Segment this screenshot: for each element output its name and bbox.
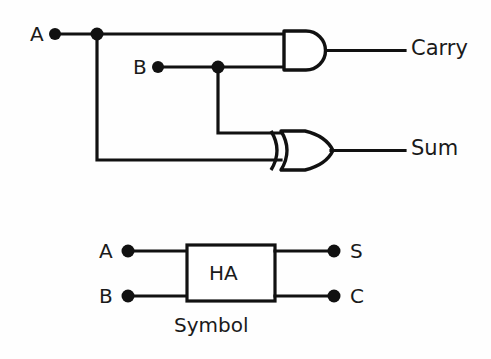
xor-gate	[271, 131, 405, 170]
wire-b-branch-to-xor	[218, 67, 281, 133]
terminal-dot-symbol-a	[122, 245, 135, 258]
xor-gate-body	[281, 131, 333, 170]
terminal-dot-symbol-s	[328, 245, 341, 258]
input-label-b: B	[133, 57, 147, 77]
symbol-caption: Symbol	[174, 315, 249, 335]
symbol-input-label-b: B	[99, 286, 113, 306]
terminal-dot-symbol-c	[328, 290, 341, 303]
and-gate	[284, 31, 405, 70]
symbol-output-label-s: S	[350, 241, 363, 261]
symbol-block-label: HA	[209, 263, 238, 283]
half-adder-figure: A B Carry Sum A B S C HA Symbol	[0, 0, 491, 359]
symbol-output-label-c: C	[350, 286, 364, 306]
wire-group-a-input	[55, 34, 284, 160]
symbol-input-label-a: A	[99, 241, 113, 261]
terminal-dot-b	[152, 61, 164, 73]
wire-group-b-input	[158, 67, 284, 133]
junction-dot-b	[212, 61, 225, 74]
wire-a-branch-to-xor	[97, 34, 281, 160]
input-label-a: A	[30, 24, 44, 44]
terminal-dot-a	[49, 28, 61, 40]
terminal-dot-symbol-b	[122, 290, 135, 303]
output-label-sum: Sum	[411, 138, 458, 159]
xor-gate-extra-arc	[271, 131, 277, 170]
and-gate-body	[284, 31, 325, 70]
output-label-carry: Carry	[411, 38, 468, 59]
junction-dot-a	[91, 28, 104, 41]
